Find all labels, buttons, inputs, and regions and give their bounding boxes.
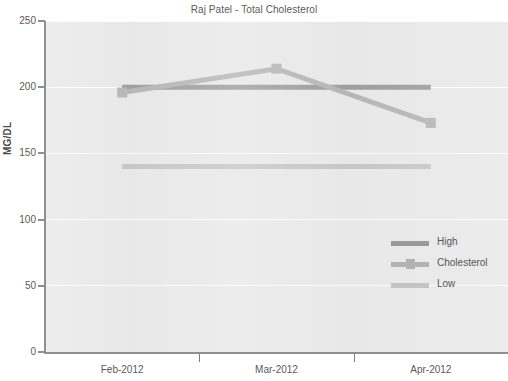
y-axis-line: [44, 21, 46, 353]
y-tick: 0: [0, 347, 36, 357]
data-point-marker: [426, 118, 436, 128]
y-tick: 50: [0, 281, 36, 291]
y-tick-label: 250: [2, 16, 36, 26]
legend-label: High: [437, 236, 458, 247]
y-tick-label: 50: [2, 281, 36, 291]
legend-label: Cholesterol: [437, 257, 488, 268]
legend-item-low[interactable]: Low: [391, 276, 501, 297]
y-tick-mark: [38, 152, 45, 154]
x-axis-line: [44, 352, 508, 354]
y-tick: 200: [0, 82, 36, 92]
legend-item-high[interactable]: High: [391, 234, 501, 255]
plot-area: [45, 21, 508, 352]
x-tick-mark: [354, 354, 355, 362]
series-line: [122, 69, 431, 123]
x-tick-label: Feb-2012: [101, 364, 144, 375]
y-tick-label: 0: [2, 347, 36, 357]
chart-title: Raj Patel - Total Cholesterol: [0, 4, 508, 15]
x-tick-label: Mar-2012: [255, 364, 298, 375]
y-tick: 150: [0, 148, 36, 158]
y-tick: 250: [0, 16, 36, 26]
y-tick-mark: [38, 285, 45, 287]
series-layer: [45, 21, 508, 352]
y-tick-mark: [38, 351, 45, 353]
y-tick-mark: [38, 20, 45, 22]
y-tick-mark: [38, 86, 45, 88]
y-tick: 100: [0, 215, 36, 225]
legend-item-cholesterol[interactable]: Cholesterol: [391, 255, 501, 276]
data-point-marker: [117, 88, 127, 98]
legend-label: Low: [437, 278, 455, 289]
chart-legend: HighCholesterolLow: [391, 234, 501, 297]
x-tick-label: Apr-2012: [410, 364, 451, 375]
series-cholesterol: [117, 64, 436, 128]
legend-marker-icon: [406, 259, 415, 269]
y-tick-label: 150: [2, 148, 36, 158]
legend-swatch: [391, 241, 429, 246]
chart-container: Raj Patel - Total Cholesterol MG/DL 0501…: [0, 0, 508, 381]
legend-swatch: [391, 283, 429, 288]
data-point-marker: [272, 64, 282, 74]
y-tick-mark: [38, 219, 45, 221]
y-tick-label: 200: [2, 82, 36, 92]
y-tick-label: 100: [2, 215, 36, 225]
x-tick-mark: [199, 354, 200, 362]
